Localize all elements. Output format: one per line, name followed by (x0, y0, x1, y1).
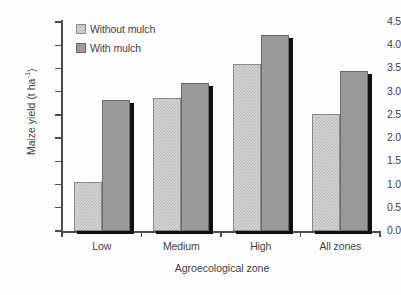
x-axis-tick (300, 231, 301, 237)
y-axis-tick (55, 91, 61, 92)
x-axis-category-label: Low (57, 240, 147, 252)
y-axis-tick (55, 184, 61, 185)
y-axis-line (61, 20, 63, 232)
chart-figure: Without mulch With mulch 0.00.51.01.52.0… (0, 0, 401, 295)
x-axis-tick (141, 231, 142, 237)
legend-item-without-mulch: Without mulch (76, 20, 155, 37)
legend-item-with-mulch: With mulch (76, 39, 155, 56)
x-axis-category-label: High (216, 240, 306, 252)
y-axis-title: Maize yield (t ha-1) (23, 12, 37, 212)
y-axis-tick (55, 207, 61, 208)
x-axis-category-label: All zones (295, 240, 385, 252)
y-axis-title-tail: ) (25, 68, 37, 72)
x-axis-category-label: Medium (136, 240, 226, 252)
bar-group-shadow (315, 231, 372, 234)
x-axis-tick (220, 231, 221, 237)
y-axis-tick (55, 230, 61, 231)
legend-swatch-without-mulch (76, 24, 86, 34)
x-axis-tick (61, 231, 62, 237)
y-axis-tick (55, 45, 61, 46)
bar-with-mulch (340, 71, 368, 231)
y-axis-title-main: Maize yield (t ha (25, 79, 37, 155)
bar-without-mulch (74, 182, 102, 231)
bar-without-mulch (312, 114, 340, 231)
bar-shadow (289, 38, 293, 234)
bar-group-shadow (156, 231, 213, 234)
y-axis-tick (55, 114, 61, 115)
bar-shadow (209, 86, 213, 234)
y-axis-tick-label: 4.5 (347, 16, 401, 26)
bar-group-shadow (77, 231, 134, 234)
y-axis-tick (55, 137, 61, 138)
legend-swatch-with-mulch (76, 43, 86, 53)
bar-with-mulch (102, 100, 130, 231)
bar-shadow (130, 103, 134, 234)
x-axis-tick (379, 231, 380, 237)
y-axis-tick (55, 21, 61, 22)
bar-shadow (368, 74, 372, 234)
y-axis-title-exponent: -1 (23, 72, 32, 79)
chart-legend: Without mulch With mulch (76, 20, 155, 58)
bar-without-mulch (153, 98, 181, 231)
y-axis-tick-label: 4.0 (347, 39, 401, 49)
bar-without-mulch (233, 64, 261, 231)
bar-with-mulch (181, 83, 209, 231)
legend-label-without-mulch: Without mulch (90, 23, 155, 35)
y-axis-tick (55, 68, 61, 69)
bar-group-shadow (236, 231, 293, 234)
y-axis-tick (55, 161, 61, 162)
x-axis-title: Agroecological zone (62, 262, 382, 274)
bar-with-mulch (261, 35, 289, 231)
legend-label-with-mulch: With mulch (90, 42, 141, 54)
